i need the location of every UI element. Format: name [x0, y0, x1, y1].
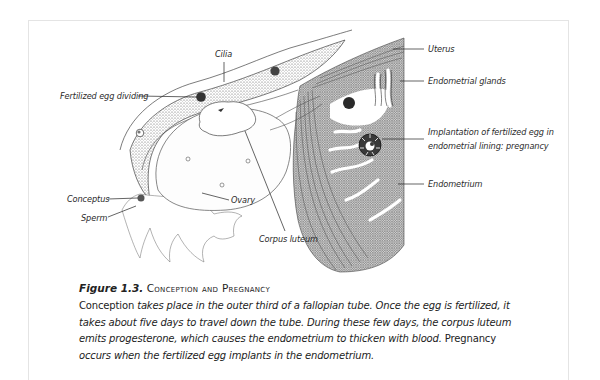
figure-title: Conception and Pregnancy: [147, 282, 270, 294]
label-cilia: Cilia: [215, 49, 232, 59]
label-endometrium: Endometrium: [428, 179, 483, 189]
label-ovary: Ovary: [231, 195, 255, 205]
figure-number: Figure 1.3.: [79, 282, 143, 294]
label-implantation-line2: endometrial lining: pregnancy: [428, 141, 549, 151]
label-fertilized-egg-dividing: Fertilized egg dividing: [60, 91, 148, 101]
caption-seg4: occurs when the fertilized egg implants …: [79, 350, 374, 361]
caption-title: Figure 1.3. Conception and Pregnancy: [79, 281, 519, 295]
label-sperm: Sperm: [81, 213, 107, 223]
figure-caption: Figure 1.3. Conception and Pregnancy Con…: [79, 281, 519, 364]
caption-seg3: Pregnancy: [445, 333, 496, 344]
label-corpus-luteum: Corpus luteum: [259, 234, 318, 244]
label-uterus: Uterus: [428, 44, 454, 54]
label-implantation-line1: Implantation of fertilized egg in: [428, 127, 554, 137]
caption-seg1: Conception: [79, 300, 137, 311]
caption-body: Conception takes place in the outer thir…: [79, 298, 519, 364]
label-conceptus: Conceptus: [67, 194, 109, 204]
label-endometrial-glands: Endometrial glands: [428, 76, 506, 86]
